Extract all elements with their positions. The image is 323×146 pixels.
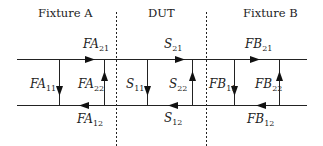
arrow-left-icon — [79, 102, 89, 109]
label-S12: S12 — [164, 112, 182, 127]
label-S11: S11 — [126, 78, 144, 93]
arrow-down-icon — [144, 86, 151, 96]
label-FB11: FB11 — [209, 78, 236, 93]
section-title-fixture-b: Fixture B — [243, 8, 298, 20]
section-title-fixture-a: Fixture A — [38, 8, 92, 20]
label-FA22: FA22 — [78, 78, 104, 93]
signal-flow-graph — [0, 0, 323, 146]
arrow-down-icon — [56, 86, 63, 96]
label-S21: S21 — [164, 38, 182, 53]
label-FA11: FA11 — [30, 78, 56, 93]
label-FB22: FB22 — [255, 78, 282, 93]
label-FB21: FB21 — [245, 38, 272, 53]
arrow-right-icon — [250, 56, 260, 63]
label-S22: S22 — [169, 78, 187, 93]
section-title-dut: DUT — [148, 8, 175, 20]
label-FA21: FA21 — [83, 38, 109, 53]
label-FA12: FA12 — [77, 113, 103, 128]
arrow-up-icon — [189, 71, 196, 81]
arrow-right-icon — [175, 56, 185, 63]
label-FB12: FB12 — [247, 113, 274, 128]
arrow-left-icon — [168, 102, 178, 109]
arrow-left-icon — [256, 102, 266, 109]
arrow-right-icon — [85, 56, 95, 63]
